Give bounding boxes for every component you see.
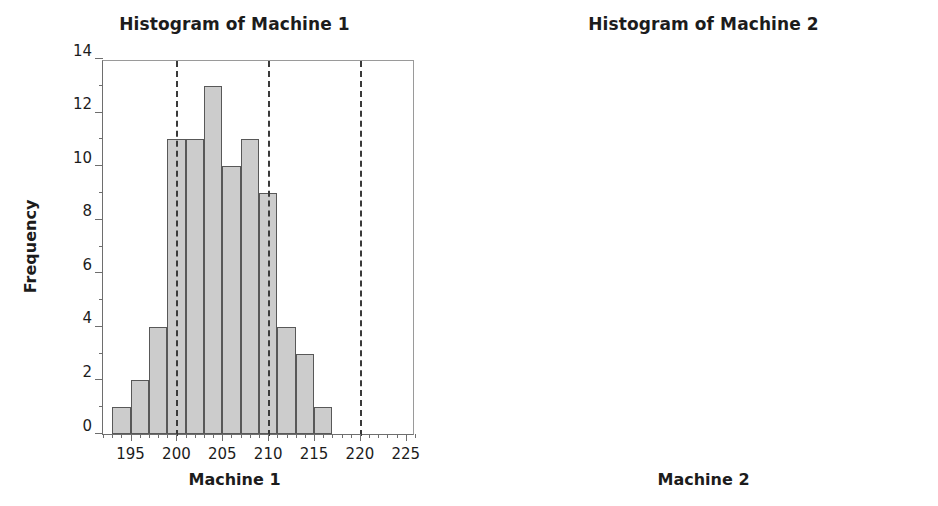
chart-title-machine-1: Histogram of Machine 1 (0, 14, 469, 34)
y-axis-minor-tick (99, 406, 103, 407)
x-axis-minor-tick (323, 434, 324, 438)
x-axis-minor-tick (415, 434, 416, 438)
upper-spec-limit (360, 61, 362, 436)
x-axis-tick (360, 434, 361, 441)
y-axis-tick-label: 6 (82, 256, 92, 274)
y-axis-tick (95, 272, 103, 273)
x-axis-minor-tick (112, 434, 113, 438)
x-axis-tick-label: 210 (254, 445, 283, 463)
histogram-bar (241, 139, 259, 434)
y-axis-tick (95, 58, 103, 59)
x-axis-minor-tick (397, 434, 398, 438)
y-axis-minor-tick (99, 192, 103, 193)
x-axis-minor-tick (121, 434, 122, 438)
histogram-bar (222, 166, 240, 434)
y-axis-minor-tick (99, 353, 103, 354)
x-axis-tick-label: 225 (391, 445, 420, 463)
histogram-bar (149, 327, 167, 434)
x-axis-minor-tick (332, 434, 333, 438)
x-axis-minor-tick (296, 434, 297, 438)
x-axis-minor-tick (250, 434, 251, 438)
y-axis-tick-label: 14 (73, 42, 92, 60)
x-axis-tick-label: 215 (300, 445, 329, 463)
x-axis-minor-tick (204, 434, 205, 438)
x-axis-minor-tick (287, 434, 288, 438)
y-axis-tick (95, 112, 103, 113)
y-axis-minor-tick (99, 85, 103, 86)
lower-spec-limit (176, 61, 178, 436)
y-axis-label-machine-1: Frequency (21, 187, 40, 307)
x-axis-minor-tick (369, 434, 370, 438)
x-axis-tick (176, 434, 177, 441)
x-axis-tick (406, 434, 407, 441)
y-axis-tick (95, 326, 103, 327)
x-axis-minor-tick (167, 434, 168, 438)
y-axis-minor-tick (99, 138, 103, 139)
y-axis-tick (95, 165, 103, 166)
x-axis-minor-tick (259, 434, 260, 438)
x-axis-tick-label: 220 (346, 445, 375, 463)
plot-area-machine-1: 02468101214195200205210215220225 (102, 60, 414, 435)
x-axis-tick (131, 434, 132, 441)
target-line (268, 61, 270, 436)
y-axis-tick-label: 10 (73, 149, 92, 167)
y-axis-tick (95, 219, 103, 220)
histogram-bar (186, 139, 204, 434)
histogram-bar (131, 380, 149, 434)
chart-panel-machine-2: Histogram of Machine 2 05101520195200205… (469, 0, 938, 506)
histogram-bar (204, 86, 222, 434)
x-axis-minor-tick (213, 434, 214, 438)
x-axis-minor-tick (378, 434, 379, 438)
x-axis-label-machine-2: Machine 2 (469, 470, 938, 489)
histogram-bars-machine-1 (103, 61, 413, 434)
x-axis-tick-label: 200 (162, 445, 191, 463)
y-axis-tick-label: 8 (82, 202, 92, 220)
x-axis-minor-tick (277, 434, 278, 438)
x-axis-minor-tick (158, 434, 159, 438)
x-axis-tick (314, 434, 315, 441)
y-axis-minor-tick (99, 246, 103, 247)
y-axis-tick-label: 12 (73, 95, 92, 113)
y-axis-minor-tick (99, 299, 103, 300)
x-axis-label-machine-1: Machine 1 (0, 470, 469, 489)
x-axis-minor-tick (305, 434, 306, 438)
x-axis-tick-label: 205 (208, 445, 237, 463)
x-axis-minor-tick (387, 434, 388, 438)
x-axis-minor-tick (186, 434, 187, 438)
histogram-figure: Histogram of Machine 1 Frequency 0246810… (0, 0, 938, 506)
x-axis-minor-tick (103, 434, 104, 438)
histogram-bar (314, 407, 332, 434)
histogram-bar (277, 327, 295, 434)
x-axis-minor-tick (342, 434, 343, 438)
histogram-bar (296, 354, 314, 434)
y-axis-tick-label: 2 (82, 363, 92, 381)
x-axis-tick (268, 434, 269, 441)
y-axis-tick-label: 0 (82, 417, 92, 435)
x-axis-minor-tick (241, 434, 242, 438)
x-axis-minor-tick (149, 434, 150, 438)
x-axis-tick (222, 434, 223, 441)
chart-title-machine-2: Histogram of Machine 2 (469, 14, 938, 34)
x-axis-minor-tick (351, 434, 352, 438)
y-axis-tick (95, 433, 103, 434)
chart-panel-machine-1: Histogram of Machine 1 Frequency 0246810… (0, 0, 469, 506)
x-axis-minor-tick (140, 434, 141, 438)
x-axis-minor-tick (231, 434, 232, 438)
x-axis-tick-label: 195 (116, 445, 145, 463)
x-axis-minor-tick (195, 434, 196, 438)
histogram-bar (112, 407, 130, 434)
y-axis-tick-label: 4 (82, 309, 92, 327)
y-axis-tick (95, 379, 103, 380)
